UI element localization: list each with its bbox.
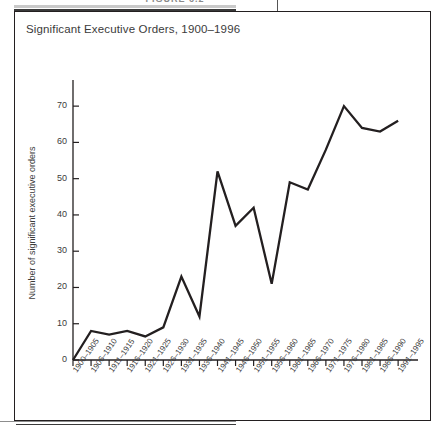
figure-border-box: [14, 11, 431, 421]
figure-caption-label: FIGURE 6.2: [100, 0, 250, 5]
bottom-rule-light: [0, 421, 236, 422]
bottom-rule: [16, 424, 236, 425]
figure-page: FIGURE 6.2 Significant Executive Orders,…: [0, 0, 448, 438]
figure-caption-underline-light: [14, 5, 236, 8]
chart-title: Significant Executive Orders, 1900–1996: [26, 23, 240, 35]
